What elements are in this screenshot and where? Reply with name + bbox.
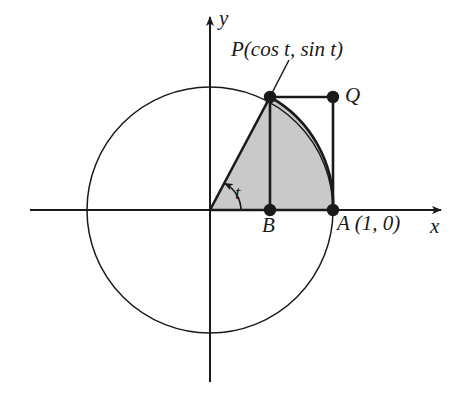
unit-circle-figure: y x P(cos t, sin t) Q A (1, 0) B t <box>0 0 453 394</box>
point-label-a: A (1, 0) <box>337 213 400 234</box>
point-label-p: P(cos t, sin t) <box>231 39 343 60</box>
point-q <box>327 91 339 103</box>
y-axis-label: y <box>219 8 228 29</box>
point-label-b: B <box>262 215 275 236</box>
leader-line-to-p <box>272 60 289 93</box>
angle-label-t: t <box>235 183 240 202</box>
point-p <box>264 91 276 103</box>
x-axis-label: x <box>430 216 439 237</box>
figure-canvas <box>0 0 453 394</box>
point-label-q: Q <box>345 85 360 106</box>
shaded-sector-region <box>210 97 333 210</box>
